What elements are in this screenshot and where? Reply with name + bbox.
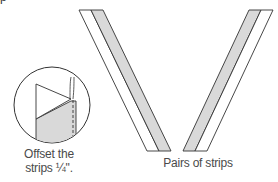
pairs-caption: Pairs of strips (138, 156, 258, 170)
offset-caption-line1: Offset the (18, 147, 80, 161)
offset-caption: Offset the strips ¼". (18, 147, 80, 175)
left-strip-pair (79, 10, 171, 151)
right-strip-pair (183, 10, 273, 151)
offset-caption-line2: strips ¼". (18, 161, 80, 175)
offset-inset-illustration (14, 67, 90, 150)
